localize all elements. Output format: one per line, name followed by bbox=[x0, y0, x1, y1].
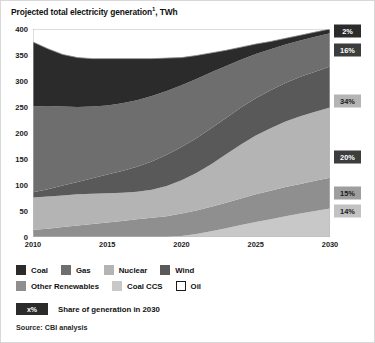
plot-area bbox=[33, 29, 330, 237]
legend-item-oil: Oil bbox=[176, 281, 201, 291]
share-callout-other-renewables: 15% bbox=[334, 187, 361, 200]
y-axis-tick-400: 400 bbox=[15, 25, 28, 34]
y-axis-tick-150: 150 bbox=[15, 155, 28, 164]
chart-title-text: Projected total electricity generation bbox=[11, 7, 152, 17]
legend-label-coal: Coal bbox=[31, 266, 48, 275]
x-axis-tick-2030: 2030 bbox=[322, 240, 338, 249]
chart-legend: CoalGasNuclearWindOther RenewablesCoal C… bbox=[16, 265, 361, 297]
legend-row-2: Other RenewablesCoal CCSOil bbox=[16, 281, 361, 291]
legend-swatch-coal bbox=[16, 265, 26, 275]
legend-label-wind: Wind bbox=[175, 266, 194, 275]
legend-swatch-coal-ccs bbox=[112, 281, 122, 291]
share-callout-nuclear: 34% bbox=[334, 95, 361, 108]
y-axis: 050100150200250300350400 bbox=[0, 29, 28, 237]
chart-title: Projected total electricity generation1,… bbox=[11, 6, 178, 17]
legend-item-nuclear: Nuclear bbox=[104, 265, 148, 275]
share-note: x% Share of generation in 2030 bbox=[16, 303, 160, 315]
y-axis-tick-300: 300 bbox=[15, 77, 28, 86]
x-axis: 20102015202020252030 bbox=[33, 240, 330, 254]
y-axis-tick-200: 200 bbox=[15, 129, 28, 138]
legend-row-1: CoalGasNuclearWind bbox=[16, 265, 361, 275]
legend-swatch-nuclear bbox=[104, 265, 114, 275]
legend-label-nuclear: Nuclear bbox=[119, 266, 148, 275]
legend-label-gas: Gas bbox=[76, 266, 91, 275]
x-axis-tick-2025: 2025 bbox=[248, 240, 264, 249]
share-callout-gas: 16% bbox=[334, 43, 361, 56]
chart-title-unit: TWh bbox=[160, 7, 178, 17]
legend-item-coal-ccs: Coal CCS bbox=[112, 281, 163, 291]
legend-item-coal: Coal bbox=[16, 265, 48, 275]
x-axis-tick-2020: 2020 bbox=[173, 240, 189, 249]
y-axis-tick-350: 350 bbox=[15, 51, 28, 60]
y-axis-tick-50: 50 bbox=[20, 207, 28, 216]
share-callout-group: 2%16%34%20%15%14% bbox=[334, 29, 370, 237]
legend-swatch-wind bbox=[160, 265, 170, 275]
legend-item-gas: Gas bbox=[61, 265, 91, 275]
legend-label-oil: Oil bbox=[191, 282, 201, 291]
y-axis-tick-100: 100 bbox=[15, 181, 28, 190]
legend-swatch-gas bbox=[61, 265, 71, 275]
source-note: Source: CBI analysis bbox=[16, 323, 88, 332]
share-note-badge: x% bbox=[16, 303, 48, 315]
share-callout-coal: 2% bbox=[334, 25, 361, 38]
x-axis-tick-2015: 2015 bbox=[99, 240, 115, 249]
share-callout-coal-ccs: 14% bbox=[334, 205, 361, 218]
legend-item-wind: Wind bbox=[160, 265, 194, 275]
share-note-text: Share of generation in 2030 bbox=[58, 305, 160, 314]
legend-label-coal-ccs: Coal CCS bbox=[127, 282, 163, 291]
share-callout-wind: 20% bbox=[334, 150, 361, 163]
legend-swatch-oil bbox=[176, 281, 186, 291]
x-axis-tick-2010: 2010 bbox=[25, 240, 41, 249]
y-axis-tick-250: 250 bbox=[15, 103, 28, 112]
stacked-area-svg bbox=[33, 29, 330, 237]
legend-swatch-other-renewables bbox=[16, 281, 26, 291]
legend-item-other-renewables: Other Renewables bbox=[16, 281, 99, 291]
legend-label-other-renewables: Other Renewables bbox=[31, 282, 99, 291]
